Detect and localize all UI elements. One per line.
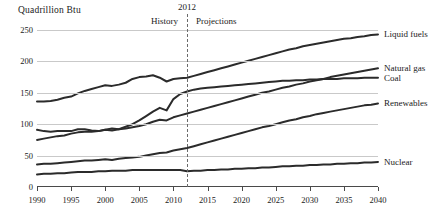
x-axis-tick-label: 2000 xyxy=(97,196,114,205)
legend-label-liquid-fuels: Liquid fuels xyxy=(384,30,428,39)
projections-region-label: Projections xyxy=(187,16,237,26)
x-axis-tick-mark xyxy=(139,187,140,191)
gridline-y-50 xyxy=(37,156,378,157)
y-axis-tick-label: 250 xyxy=(20,26,33,35)
y-axis-tick-label: 150 xyxy=(20,89,33,98)
series-line-liquid-fuels xyxy=(37,34,378,101)
energy-consumption-chart: Quadrillion Btu 050100150200250199019952… xyxy=(0,0,447,219)
gridline-y-200 xyxy=(37,61,378,62)
x-axis-tick-label: 2035 xyxy=(335,196,352,205)
x-axis-tick-mark xyxy=(310,187,311,191)
x-axis-tick-mark xyxy=(208,187,209,191)
y-axis-tick-label: 100 xyxy=(20,120,33,129)
series-line-nuclear xyxy=(37,162,378,175)
series-lines xyxy=(37,30,378,187)
y-axis-tick-label: 0 xyxy=(29,183,33,192)
x-axis-tick-mark xyxy=(344,187,345,191)
legend-label-nuclear: Nuclear xyxy=(384,157,412,166)
divider-year-label: 2012 xyxy=(178,2,196,12)
x-axis-tick-label: 2020 xyxy=(233,196,250,205)
legend-label-renewables: Renewables xyxy=(384,99,427,108)
history-region-label: History xyxy=(151,16,187,26)
x-axis-tick-label: 2040 xyxy=(370,196,387,205)
gridline-y-150 xyxy=(37,93,378,94)
x-axis-tick-mark xyxy=(173,187,174,191)
x-axis-tick-mark xyxy=(276,187,277,191)
plot-area: 0501001502002501990199520002005201020152… xyxy=(37,30,378,187)
x-axis-tick-mark xyxy=(71,187,72,191)
x-axis-tick-mark xyxy=(378,187,379,191)
gridline-y-250 xyxy=(37,30,378,31)
y-axis-tick-label: 200 xyxy=(20,57,33,66)
y-axis-tick-label: 50 xyxy=(25,151,34,160)
x-axis-tick-label: 2015 xyxy=(199,196,216,205)
x-axis-tick-label: 2005 xyxy=(131,196,148,205)
x-axis-tick-label: 1990 xyxy=(29,196,46,205)
x-axis-tick-label: 2025 xyxy=(267,196,284,205)
x-axis-tick-label: 2010 xyxy=(165,196,182,205)
x-axis-tick-label: 2030 xyxy=(301,196,318,205)
x-axis-tick-mark xyxy=(105,187,106,191)
x-axis-tick-mark xyxy=(37,187,38,191)
history-projection-divider xyxy=(187,14,188,187)
x-axis-tick-label: 1995 xyxy=(63,196,80,205)
legend-label-coal: Coal xyxy=(384,73,401,82)
chart-axis-title: Quadrillion Btu xyxy=(18,5,81,15)
x-axis-tick-mark xyxy=(242,187,243,191)
gridline-y-100 xyxy=(37,124,378,125)
